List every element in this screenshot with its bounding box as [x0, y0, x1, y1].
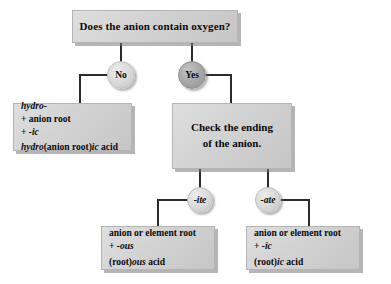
decision-circle-yes-label: Yes — [185, 70, 199, 80]
connector-root-to-no — [120, 43, 122, 63]
connector-no-left — [79, 74, 108, 76]
connector-yes-down — [230, 74, 232, 104]
connector-yes-right — [203, 74, 232, 76]
flowchart-canvas: Does the anion contain oxygen? No Yes hy… — [0, 0, 391, 284]
connector-ate-right — [279, 199, 310, 201]
connector-ite-down — [157, 199, 159, 226]
decision-circle-yes[interactable]: Yes — [178, 61, 206, 89]
ending-circle-ate[interactable]: -ate — [255, 187, 281, 213]
ic-result: (root)ic acid — [254, 256, 352, 269]
connector-check-to-ite — [199, 169, 201, 188]
check-ending-line-2: of the anion. — [203, 136, 261, 152]
result-box-hydro: hydro- + anion root + -ic hydro(anion ro… — [13, 103, 132, 151]
ic-line-2: + -ic — [254, 240, 352, 253]
ic-line-1: anion or element root — [254, 227, 352, 240]
ous-line-2: + -ous — [109, 240, 207, 253]
ending-circle-ate-label: -ate — [261, 195, 276, 205]
ous-result: (root)ous acid — [109, 256, 207, 269]
hydro-line-1: hydro- — [21, 100, 124, 113]
connector-ite-left — [157, 199, 188, 201]
question-box-root: Does the anion contain oxygen? — [72, 10, 238, 43]
instruction-box-check-ending: Check the ending of the anion. — [172, 103, 292, 169]
question-box-root-label: Does the anion contain oxygen? — [80, 20, 231, 34]
decision-circle-no[interactable]: No — [107, 61, 135, 89]
connector-ate-down — [308, 199, 310, 226]
check-ending-line-1: Check the ending — [191, 120, 273, 136]
ending-circle-ite-label: -ite — [194, 195, 207, 205]
hydro-line-3: + -ic — [21, 126, 124, 139]
hydro-result: hydro(anion root)ic acid — [21, 141, 124, 154]
connector-check-to-ate — [267, 169, 269, 188]
decision-circle-no-label: No — [115, 70, 127, 80]
ending-circle-ite[interactable]: -ite — [187, 187, 213, 213]
connector-root-to-yes — [191, 43, 193, 63]
ous-line-1: anion or element root — [109, 227, 207, 240]
result-box-ic: anion or element root + -ic (root)ic aci… — [246, 226, 360, 270]
hydro-line-2: + anion root — [21, 113, 124, 126]
result-box-ous: anion or element root + -ous (root)ous a… — [101, 226, 215, 270]
